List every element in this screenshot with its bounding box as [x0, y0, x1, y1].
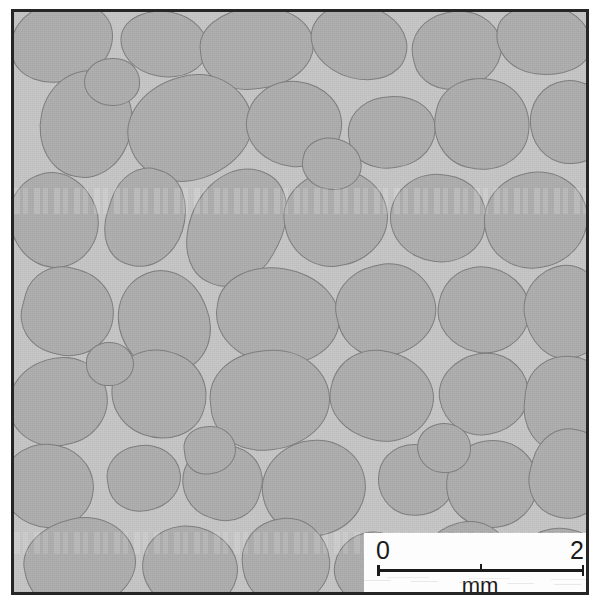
scale-bar-start-label: 0: [376, 536, 390, 564]
grain: [86, 342, 134, 386]
scale-bar-unit-label: mm: [364, 574, 589, 595]
scale-bar-tick-labels: 0 2: [374, 536, 586, 564]
scale-bar-end-label: 2: [570, 536, 584, 564]
grain: [84, 58, 140, 106]
micrograph-panel: 0 2 mm: [11, 9, 589, 595]
figure-root: 0 2 mm: [0, 0, 598, 606]
scale-bar-cap-middle: [480, 564, 482, 571]
scale-bar: 0 2 mm: [364, 533, 589, 595]
